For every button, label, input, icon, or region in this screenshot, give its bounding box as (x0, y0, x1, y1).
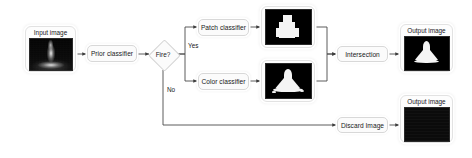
discard-image-box[interactable]: Discard Image (337, 117, 388, 133)
output-image-top-card[interactable]: Output image (400, 24, 453, 72)
input-image-caption: Input image (34, 29, 67, 37)
prior-classifier-label: Prior classifier (91, 50, 133, 57)
fire-decision-node[interactable]: Fire? (146, 39, 180, 69)
color-mask-card[interactable] (261, 60, 315, 102)
output-image-bottom-thumbnail (404, 107, 450, 142)
fire-decision-label: Fire? (146, 39, 180, 69)
output-image-bottom-caption: Output image (407, 98, 445, 106)
discard-image-label: Discard Image (341, 122, 384, 129)
prior-classifier-box[interactable]: Prior classifier (87, 45, 137, 62)
patch-mask-thumbnail (265, 9, 312, 45)
color-classifier-label: Color classifier (201, 78, 245, 85)
color-classifier-box[interactable]: Color classifier (198, 73, 249, 90)
output-image-top-thumbnail (404, 36, 450, 71)
patch-mask-card[interactable] (261, 6, 315, 48)
input-image-card[interactable]: Input image (25, 26, 76, 72)
intersection-label: Intersection (345, 51, 380, 58)
edge-label-no: No (167, 86, 175, 93)
patch-classifier-box[interactable]: Patch classifier (198, 19, 249, 36)
input-image-thumbnail (29, 38, 73, 72)
output-image-bottom-card[interactable]: Output image (400, 95, 453, 143)
color-mask-thumbnail (265, 63, 312, 99)
flowchart-canvas: Input image Prior classifier Fire? Yes N… (0, 0, 472, 158)
edge-label-yes: Yes (188, 42, 198, 49)
output-image-top-caption: Output image (407, 27, 445, 35)
intersection-box[interactable]: Intersection (337, 46, 388, 62)
patch-classifier-label: Patch classifier (201, 24, 246, 31)
